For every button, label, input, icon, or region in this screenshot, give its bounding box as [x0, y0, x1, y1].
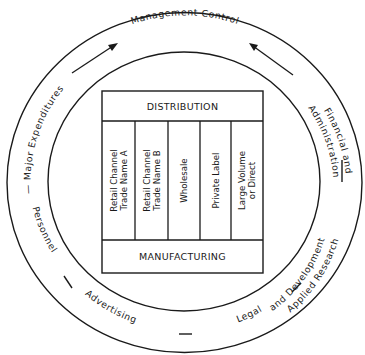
separator-dash	[64, 276, 72, 288]
business-units-box: DISTRIBUTION MANUFACTURING Retail Channe…	[102, 91, 263, 273]
svg-text:Retail Channel: Retail Channel	[142, 149, 152, 211]
column-retail-b: Retail Channel Trade Name B	[142, 149, 162, 211]
column-private-label: Private Label	[211, 153, 221, 209]
svg-text:Trade Name B: Trade Name B	[152, 150, 162, 211]
svg-text:Private Label: Private Label	[211, 153, 221, 209]
arrow-right-to-management-icon	[249, 43, 293, 75]
distribution-header: DISTRIBUTION	[147, 101, 219, 112]
svg-text:or Direct: or Direct	[247, 161, 257, 199]
organization-ring-diagram: Management Control — Major Expenditures …	[0, 0, 365, 355]
manufacturing-footer: MANUFACTURING	[139, 251, 226, 262]
svg-text:Large Volume: Large Volume	[237, 151, 247, 210]
arrow-left-to-management-icon	[72, 43, 118, 73]
svg-text:Retail Channel: Retail Channel	[109, 149, 119, 211]
label-management-control: Management Control	[129, 6, 240, 26]
column-retail-a: Retail Channel Trade Name A	[109, 149, 129, 211]
label-major-expenditures: — Major Expenditures	[22, 83, 66, 195]
label-advertising: Advertising	[84, 287, 139, 325]
label-personnel: Personnel	[30, 205, 60, 254]
svg-text:Trade Name A: Trade Name A	[119, 150, 129, 211]
svg-text:Wholesale: Wholesale	[179, 158, 189, 202]
column-wholesale: Wholesale	[179, 158, 189, 202]
label-legal: Legal	[235, 303, 264, 325]
